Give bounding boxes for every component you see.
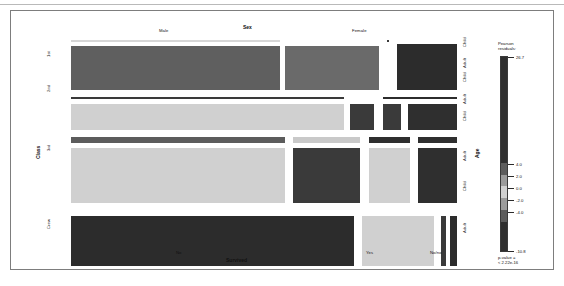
figure-frame: Sex Male Female Survived No Yes No/no Cl… [10, 10, 554, 270]
right-axis-tick-adult-4: Adult [463, 223, 467, 233]
legend-color-segment-1 [501, 163, 507, 175]
legend-pvalue-line2: < 2.22e-16 [498, 260, 518, 265]
legend-color-bar [500, 56, 508, 252]
mosaic-plot-area [68, 38, 458, 267]
mosaic-tile [449, 215, 458, 267]
mosaic-tile [417, 147, 458, 204]
mosaic-tile [368, 136, 411, 143]
mosaic-tile [368, 147, 411, 204]
mosaic-tile [417, 136, 458, 143]
left-axis-tick-1st: 1st [47, 51, 51, 57]
top-axis-title: Sex [243, 24, 252, 30]
left-axis-tick-crew: Crew [47, 219, 51, 229]
left-axis-tick-3rd: 3rd [47, 145, 51, 151]
right-axis-tick-child-4: Child [463, 181, 467, 191]
mosaic-tile [70, 147, 286, 204]
right-axis-title: Age [474, 149, 480, 158]
mosaic-tile [70, 136, 286, 143]
mosaic-tile [386, 39, 390, 43]
mosaic-tile [70, 96, 345, 100]
mosaic-tile [382, 96, 458, 100]
legend-tick-neg4 [508, 212, 514, 213]
mosaic-tile [292, 147, 360, 204]
mosaic-tile [440, 215, 446, 267]
legend-pvalue: p-value = < 2.22e-16 [498, 255, 518, 265]
legend-value-0: 0.0 [516, 186, 522, 191]
legend-color-segment-0 [501, 57, 507, 163]
right-axis-tick-child-2: Child [463, 72, 467, 82]
legend-value-4: 4.0 [516, 162, 522, 167]
legend-value-neg4: -4.0 [516, 210, 523, 215]
figure-caption [0, 274, 564, 286]
mosaic-tile [70, 39, 281, 43]
mosaic-tile [284, 45, 380, 91]
left-axis-tick-2nd: 2nd [47, 85, 51, 92]
mosaic-tile [70, 215, 355, 267]
legend-color-segment-3 [501, 186, 507, 198]
legend-color-segment-2 [501, 175, 507, 187]
legend-tick-max [508, 57, 514, 58]
right-axis-tick-adult-2: Adult [463, 94, 467, 104]
legend-color-segment-4 [501, 198, 507, 210]
mosaic-tile [382, 103, 402, 132]
right-axis-tick-adult-1: Adult [463, 58, 467, 68]
legend-color-segment-5 [501, 210, 507, 222]
mosaic-tile [407, 103, 458, 132]
legend-tick-4 [508, 164, 514, 165]
top-axis-tick-female: Female [352, 29, 367, 33]
legend-tick-2 [508, 176, 514, 177]
legend-value-2: 2.0 [516, 174, 522, 179]
figure-page: Sex Male Female Survived No Yes No/no Cl… [0, 0, 564, 286]
mosaic-tile [349, 103, 375, 132]
right-axis-tick-child-1: Child [463, 37, 467, 47]
legend-title: Pearson residuals: [498, 41, 516, 51]
legend-title-line2: residuals: [498, 46, 516, 51]
mosaic-tile [70, 103, 345, 132]
legend-value-max: 26.7 [516, 55, 524, 60]
bottom-axis-tick-yes: Yes [366, 251, 373, 255]
legend-tick-0 [508, 188, 514, 189]
mosaic-tile [396, 43, 458, 90]
left-axis-title: Class [35, 146, 41, 159]
right-axis-tick-child-3: Child [463, 111, 467, 121]
top-axis-tick-male: Male [159, 29, 168, 33]
legend-tick-min [508, 251, 514, 252]
legend-tick-neg2 [508, 200, 514, 201]
legend-value-min: -10.8 [516, 249, 526, 254]
residual-legend: Pearson residuals: 26.7 4.0 2.0 0.0 -2.0… [498, 41, 560, 256]
bottom-axis-tick-no: No [176, 251, 182, 255]
bottom-axis-tick-nono: No/no [430, 251, 442, 255]
bottom-axis-title: Survived [226, 257, 247, 263]
legend-value-neg2: -2.0 [516, 198, 523, 203]
mosaic-tile [292, 136, 360, 143]
mosaic-tile [70, 45, 281, 91]
page-top-rule [0, 4, 564, 5]
right-axis-tick-adult-3: Adult [463, 151, 467, 161]
mosaic-tile [361, 215, 435, 267]
legend-color-segment-6 [501, 222, 507, 251]
mosaic-tile [70, 210, 355, 212]
